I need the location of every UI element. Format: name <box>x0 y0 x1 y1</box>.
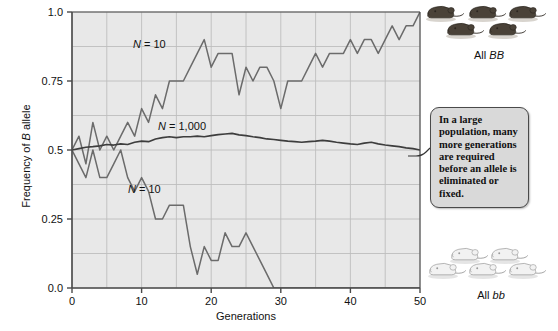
mouse-tail <box>453 13 464 16</box>
x-tick-label: 40 <box>344 295 356 307</box>
mouse-ear <box>510 25 516 31</box>
mouse-eye <box>454 27 456 29</box>
y-axis-title-prefix: Frequency of <box>20 140 32 207</box>
y-tick-label: 0.0 <box>48 282 63 294</box>
mice-group-bb: All bb <box>428 244 554 306</box>
mouse-eye <box>476 267 478 269</box>
x-tick-labels: 01020304050 <box>69 295 426 307</box>
mouse-icon <box>426 6 464 22</box>
mouse-ear <box>530 265 536 271</box>
mouse-tail <box>517 255 528 258</box>
x-tick-label: 20 <box>205 295 217 307</box>
x-axis-title: Generations <box>72 310 420 322</box>
mouse-icon <box>490 248 528 264</box>
mouse-ear <box>530 8 536 14</box>
mouse-icon <box>508 6 546 22</box>
series-label-upper-n10: N = 10 <box>133 38 166 50</box>
series-label-lower-n10: N = 10 <box>128 183 161 195</box>
mouse-ear <box>490 8 496 14</box>
mice-BB-illustration <box>424 2 554 48</box>
mouse-ear <box>468 25 474 31</box>
mouse-icon <box>468 263 506 279</box>
x-tick-label: 10 <box>135 295 147 307</box>
y-axis-title: Frequency of B allele <box>20 86 32 226</box>
mouse-eye <box>436 267 438 269</box>
mouse-tail <box>535 270 546 273</box>
mouse-eye <box>496 27 498 29</box>
mouse-icon <box>508 263 546 279</box>
mouse-ear <box>490 265 496 271</box>
y-axis-title-suffix: allele <box>20 104 32 133</box>
mouse-eye <box>516 267 518 269</box>
mice-BB-caption-prefix: All <box>474 49 489 61</box>
mouse-icon <box>446 23 484 39</box>
mouse-ear <box>450 265 456 271</box>
mouse-tail <box>535 13 546 16</box>
mouse-ear <box>472 250 478 256</box>
mice-BB-caption: All BB <box>424 49 554 61</box>
mouse-eye <box>434 10 436 12</box>
mouse-eye <box>476 10 478 12</box>
mouse-tail <box>455 270 466 273</box>
mouse-tail <box>473 30 484 33</box>
genetic-drift-figure: 01020304050 0.00.250.50.751.0 N = 10 N =… <box>0 0 558 331</box>
mice-bb-caption-prefix: All <box>477 289 492 301</box>
y-tick-label: 1.0 <box>48 6 63 18</box>
y-tick-label: 0.75 <box>42 75 63 87</box>
mouse-tail <box>495 270 506 273</box>
y-tick-label: 0.25 <box>42 213 63 225</box>
mice-bb-caption: All bb <box>428 289 554 301</box>
mouse-ear <box>512 250 518 256</box>
mouse-icon <box>428 263 466 279</box>
x-tick-label: 30 <box>275 295 287 307</box>
series-label-n1000: N = 1,000 <box>158 120 206 132</box>
mouse-icon <box>450 248 488 264</box>
mouse-tail <box>495 13 506 16</box>
y-tick-labels: 0.00.250.50.751.0 <box>42 6 63 294</box>
mice-bb-genotype: bb <box>493 289 505 301</box>
callout-text: In a large population, many more generat… <box>439 114 518 199</box>
y-tick-label: 0.5 <box>48 144 63 156</box>
x-tick-label: 50 <box>414 295 426 307</box>
mouse-eye <box>458 252 460 254</box>
mouse-eye <box>498 252 500 254</box>
y-axis-title-allele: B <box>20 133 32 140</box>
mice-group-BB: All BB <box>424 2 554 64</box>
mouse-tail <box>477 255 488 258</box>
mice-BB-genotype: BB <box>489 49 504 61</box>
mouse-ear <box>448 8 454 14</box>
callout-box: In a large population, many more generat… <box>430 107 529 208</box>
mouse-icon <box>488 23 526 39</box>
mice-bb-illustration <box>428 244 554 288</box>
mouse-eye <box>516 10 518 12</box>
mouse-icon <box>468 6 506 22</box>
mouse-tail <box>515 30 526 33</box>
x-tick-label: 0 <box>69 295 75 307</box>
